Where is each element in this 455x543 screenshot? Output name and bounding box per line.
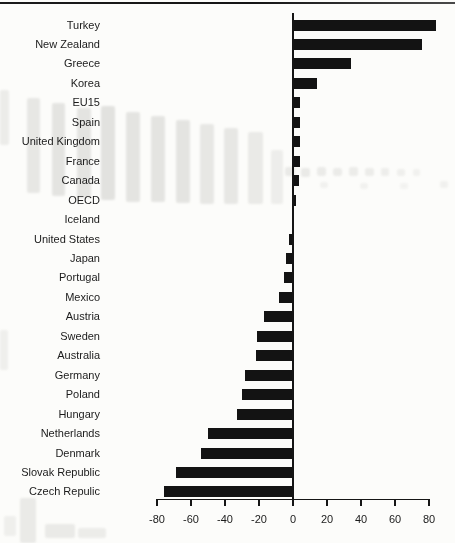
country-label: Hungary (0, 408, 100, 421)
x-axis-tick-label: 40 (345, 513, 377, 525)
x-axis-tick-label: -20 (243, 513, 275, 525)
scanned-page: TurkeyNew ZealandGreeceKoreaEU15SpainUni… (0, 0, 455, 543)
x-axis-tick (156, 500, 158, 506)
country-label: Austria (0, 310, 100, 323)
country-label: Sweden (0, 330, 100, 343)
bar (242, 389, 293, 400)
bar (293, 97, 300, 108)
bar (293, 156, 300, 167)
country-label: Mexico (0, 291, 100, 304)
country-label: Greece (0, 57, 100, 70)
bar (201, 448, 293, 459)
x-axis-tick-label: 0 (277, 513, 309, 525)
bar (256, 350, 293, 361)
x-axis-tick (224, 500, 226, 506)
country-label: United Kingdom (0, 135, 100, 148)
country-label: Canada (0, 174, 100, 187)
bar (257, 331, 293, 342)
country-label: Japan (0, 252, 100, 265)
bar (293, 58, 351, 69)
x-axis-tick (292, 500, 294, 506)
zero-axis-line (292, 13, 294, 500)
x-axis-tick-label: 20 (311, 513, 343, 525)
x-axis-tick-label: -80 (141, 513, 173, 525)
bar (293, 78, 317, 89)
country-label: Germany (0, 369, 100, 382)
x-axis-tick-label: 60 (379, 513, 411, 525)
bar (279, 292, 293, 303)
x-axis-tick-label: -40 (209, 513, 241, 525)
country-label: Portugal (0, 271, 100, 284)
country-label: New Zealand (0, 38, 100, 51)
bar (264, 311, 293, 322)
bar (293, 117, 300, 128)
bar (237, 409, 293, 420)
country-label: Czech Repulic (0, 485, 100, 498)
country-label: Poland (0, 388, 100, 401)
x-axis-tick (190, 500, 192, 506)
country-label: OECD (0, 194, 100, 207)
bar-chart: TurkeyNew ZealandGreeceKoreaEU15SpainUni… (0, 0, 455, 543)
country-label: Spain (0, 116, 100, 129)
country-label: Denmark (0, 447, 100, 460)
x-axis-tick (394, 500, 396, 506)
bar (208, 428, 293, 439)
x-axis-tick (360, 500, 362, 506)
x-axis-tick-label: -60 (175, 513, 207, 525)
bar (293, 136, 300, 147)
x-axis-tick (326, 500, 328, 506)
country-label: United States (0, 233, 100, 246)
country-label: Australia (0, 349, 100, 362)
country-label: Turkey (0, 19, 100, 32)
x-axis-tick (428, 500, 430, 506)
bar (245, 370, 293, 381)
bar (293, 39, 422, 50)
bar (293, 20, 436, 31)
country-label: France (0, 155, 100, 168)
country-label: Netherlands (0, 427, 100, 440)
x-axis-tick-label: 80 (413, 513, 445, 525)
country-label: EU15 (0, 96, 100, 109)
bar (293, 175, 299, 186)
bar (176, 467, 293, 478)
x-axis-tick (258, 500, 260, 506)
bar (164, 486, 293, 497)
country-label: Iceland (0, 213, 100, 226)
country-label: Slovak Republic (0, 466, 100, 479)
country-label: Korea (0, 77, 100, 90)
